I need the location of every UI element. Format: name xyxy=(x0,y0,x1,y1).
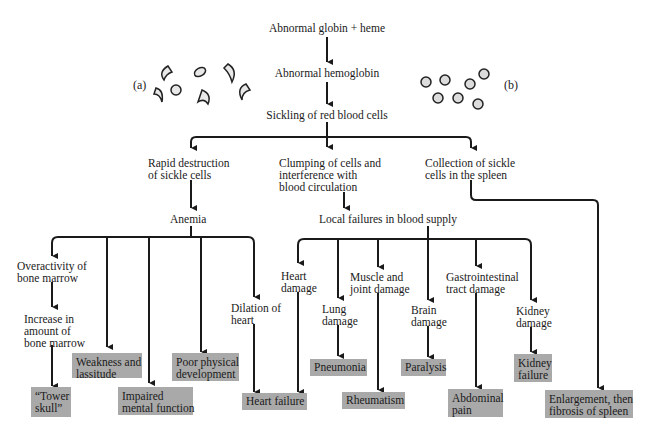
sickle-cell-icon xyxy=(150,58,260,108)
outcome-pneumonia: Pneumonia xyxy=(310,359,367,376)
node-overactivity: Overactivity of bone marrow xyxy=(17,260,87,284)
node-brain-damage: Brain damage xyxy=(411,304,447,328)
node-sickling: Sickling of red blood cells xyxy=(247,109,407,121)
node-clumping: Clumping of cells and interference with … xyxy=(279,157,381,193)
node-kidney-damage: Kidney damage xyxy=(516,305,552,329)
node-local-failures: Local failures in blood supply xyxy=(319,213,457,225)
outcome-paralysis: Paralysis xyxy=(401,359,446,376)
label-a: (a) xyxy=(133,78,146,93)
node-increase-marrow: Increase in amount of bone marrow xyxy=(24,313,85,349)
node-gi-damage: Gastrointestinal tract damage xyxy=(446,271,519,295)
outcome-spleen-fibrosis: Enlargement, then fibrosis of spleen xyxy=(545,390,633,418)
outcome-weakness: Weakness and lassitude xyxy=(72,353,142,378)
outcome-abdominal-pain: Abdominal pain xyxy=(448,389,503,417)
node-anemia: Anemia xyxy=(170,213,206,225)
normal-cells-icon xyxy=(420,64,500,114)
node-heart-damage: Heart damage xyxy=(281,270,317,294)
outcome-kidney-failure: Kidney failure xyxy=(514,354,552,382)
label-b: (b) xyxy=(504,78,518,93)
outcome-tower-skull: “Tower skull” xyxy=(31,387,71,417)
node-abnormal-globin: Abnormal globin + heme xyxy=(247,22,407,34)
node-muscle-joint: Muscle and joint damage xyxy=(350,271,410,295)
node-rapid-destruction: Rapid destruction of sickle cells xyxy=(148,157,229,181)
node-abnormal-hemoglobin: Abnormal hemoglobin xyxy=(257,67,397,79)
node-lung-damage: Lung damage xyxy=(322,303,358,327)
outcome-heart-failure: Heart failure xyxy=(242,393,307,410)
outcome-impaired-mental: Impaired mental function xyxy=(118,387,193,415)
outcome-rheumatism: Rheumatism xyxy=(342,392,405,409)
node-collection-spleen: Collection of sickle cells in the spleen xyxy=(425,157,515,181)
node-dilation: Dilation of heart xyxy=(231,302,281,326)
outcome-poor-development: Poor physical development xyxy=(172,353,239,381)
